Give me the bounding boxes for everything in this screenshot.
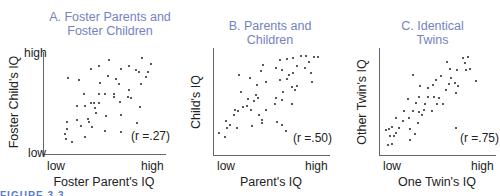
data-point	[98, 93, 100, 95]
data-point	[391, 126, 393, 128]
data-point	[225, 120, 227, 122]
data-point	[98, 65, 100, 67]
data-point	[226, 127, 228, 129]
data-point	[257, 97, 259, 99]
data-point	[127, 96, 129, 98]
data-point	[98, 102, 100, 104]
data-point	[120, 114, 122, 116]
data-point	[409, 139, 411, 141]
data-point	[71, 141, 73, 143]
data-point	[240, 91, 242, 93]
data-point	[95, 112, 97, 114]
data-point	[454, 82, 456, 84]
data-point	[285, 130, 287, 132]
data-point	[310, 72, 312, 74]
data-point	[242, 106, 244, 108]
data-point	[281, 69, 283, 71]
data-point	[417, 122, 419, 124]
data-point	[442, 103, 444, 105]
data-point	[66, 128, 68, 130]
data-point	[391, 143, 393, 145]
data-point	[90, 102, 92, 104]
data-point	[409, 128, 411, 130]
data-point	[249, 77, 251, 79]
data-point	[80, 125, 82, 127]
data-point	[274, 103, 276, 105]
data-point	[64, 133, 66, 135]
data-point	[236, 127, 238, 129]
data-point	[118, 83, 120, 85]
data-point	[107, 75, 109, 77]
data-point	[300, 55, 302, 57]
data-point	[440, 75, 442, 77]
data-point	[233, 114, 235, 116]
data-point	[403, 110, 405, 112]
data-point	[76, 105, 78, 107]
y-axis-label: Foster Child's IQ	[7, 42, 21, 162]
data-point	[281, 99, 283, 101]
data-point	[258, 114, 260, 116]
data-point	[475, 80, 477, 82]
data-point	[65, 138, 67, 140]
data-point	[76, 119, 78, 121]
data-point	[66, 121, 68, 123]
figure-label: FIGURE 3.3	[0, 190, 64, 196]
data-point	[87, 118, 89, 120]
data-point	[279, 79, 281, 81]
data-point	[91, 126, 93, 128]
data-point	[282, 91, 284, 93]
data-point	[237, 110, 239, 112]
data-point	[83, 93, 85, 95]
data-point	[385, 129, 387, 131]
data-point	[462, 57, 464, 59]
x-axis-label: Foster Parent's IQ	[43, 175, 165, 189]
data-point	[296, 65, 298, 67]
data-point	[304, 67, 306, 69]
data-point	[317, 56, 319, 58]
x-tick-high: high	[305, 159, 328, 173]
correlation-annotation: (r =.50)	[293, 131, 332, 145]
data-point	[407, 98, 409, 100]
data-point	[279, 59, 281, 61]
data-point	[455, 127, 457, 129]
data-point	[419, 85, 421, 87]
data-point	[402, 120, 404, 122]
data-point	[414, 133, 416, 135]
data-point	[136, 122, 138, 124]
data-point	[292, 72, 294, 74]
data-point	[93, 102, 95, 104]
data-point	[120, 68, 122, 70]
data-point	[262, 64, 264, 66]
data-point	[313, 56, 315, 58]
data-point	[113, 93, 115, 95]
data-point	[128, 65, 130, 67]
data-point	[281, 124, 283, 126]
data-point	[234, 109, 236, 111]
data-point	[308, 61, 310, 63]
y-axis-label: Other Twin's IQ	[355, 42, 369, 162]
data-point	[291, 103, 293, 105]
data-point	[275, 67, 277, 69]
data-point	[418, 111, 420, 113]
y-tick-low: low	[28, 146, 46, 160]
x-axis-label: One Twin's IQ	[379, 175, 495, 189]
data-point	[433, 96, 435, 98]
data-point	[292, 57, 294, 59]
data-point	[84, 136, 86, 138]
data-point	[465, 69, 467, 71]
data-point	[247, 98, 249, 100]
data-point	[229, 124, 231, 126]
data-point	[147, 71, 149, 73]
panel-title: C. Identical Twins	[370, 19, 495, 47]
data-point	[246, 105, 248, 107]
data-point	[113, 96, 115, 98]
data-point	[88, 121, 90, 123]
data-point	[105, 115, 107, 117]
data-point	[150, 63, 152, 65]
data-point	[467, 56, 469, 58]
data-point	[286, 78, 288, 80]
data-point	[435, 79, 437, 81]
data-point	[436, 103, 438, 105]
data-point	[90, 68, 92, 70]
data-point	[260, 70, 262, 72]
